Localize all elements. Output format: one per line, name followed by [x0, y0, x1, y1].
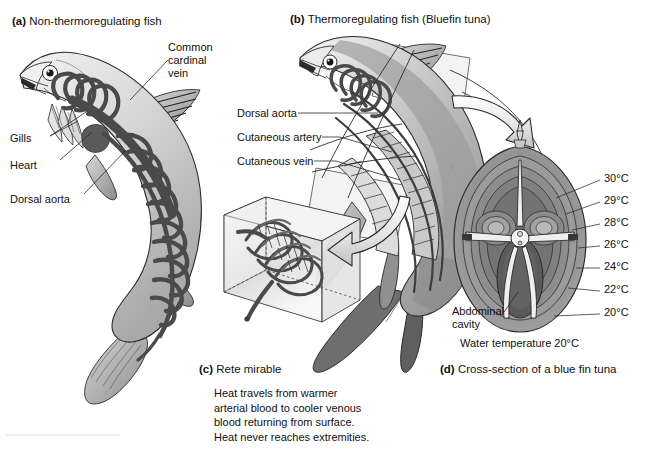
panel-a-title: (a) Non-thermoregulating fish: [12, 14, 162, 28]
panel-c-title-text: Rete mirable: [216, 363, 281, 375]
panel-c-tag: (c): [199, 363, 213, 375]
isotherm-label-29c: 29°C: [604, 194, 629, 206]
label-heart: Heart: [10, 159, 37, 172]
panel-a-title-text: Non-thermoregulating fish: [29, 15, 161, 27]
label-abdominal-cavity: Abdominal cavity: [452, 305, 504, 331]
isotherm-label-24c: 24°C: [604, 260, 629, 272]
fish-a-heart: [82, 125, 110, 153]
isotherm-label-26c: 26°C: [604, 238, 629, 250]
label-dorsal-aorta-b: Dorsal aorta: [237, 107, 297, 120]
label-cutaneous-vein: Cutaneous vein: [237, 155, 313, 168]
figure-canvas: (a) Non-thermoregulating fish Common car…: [0, 0, 661, 449]
panel-a-tag: (a): [12, 15, 26, 27]
panel-c-caption: Heat travels from warmer arterial blood …: [214, 386, 369, 444]
panel-b-title-text: Thermoregulating fish (Bluefin tuna): [308, 13, 491, 25]
panel-b-title: (b) Thermoregulating fish (Bluefin tuna): [290, 12, 491, 26]
label-water-temperature: Water temperature 20°C: [460, 337, 579, 349]
isotherm-label-20c: 20°C: [604, 306, 629, 318]
fish-a-pectoral-fin: [86, 155, 117, 200]
label-dorsal-aorta-a: Dorsal aorta: [10, 193, 70, 206]
isotherm-label-28c: 28°C: [604, 216, 629, 228]
panel-c-title: (c) Rete mirable: [199, 362, 281, 376]
fish-a-illustration: [20, 52, 201, 404]
isotherm-label-22c: 22°C: [604, 283, 629, 295]
leader-20C: [554, 314, 600, 316]
label-common-cardinal-vein: Common cardinal vein: [168, 41, 213, 80]
panel-d-title-text: Cross-section of a blue fin tuna: [458, 363, 617, 375]
label-gills: Gills: [10, 132, 31, 145]
panel-d-tag: (d): [440, 363, 455, 375]
isotherm-label-30c: 30°C: [604, 172, 629, 184]
rete-tube-end: [244, 316, 249, 321]
panel-d-title: (d) Cross-section of a blue fin tuna: [440, 362, 616, 376]
panel-b-tag: (b): [290, 13, 305, 25]
figure-artwork: [0, 0, 661, 449]
label-cutaneous-artery: Cutaneous artery: [237, 131, 321, 144]
rete-mirabile-box: [224, 197, 360, 322]
